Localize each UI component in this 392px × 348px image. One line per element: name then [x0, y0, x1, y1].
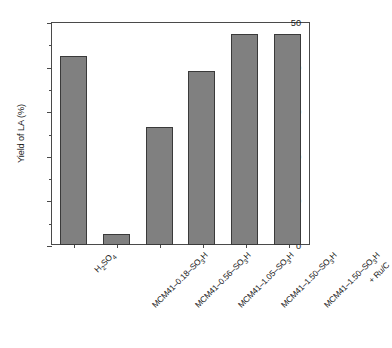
bar[interactable]	[60, 56, 87, 245]
bar[interactable]	[188, 71, 215, 245]
bar-slot	[52, 23, 95, 244]
y-tick-major	[47, 246, 52, 247]
x-axis-labels: H2SO4MCM41–0.18–SO3HMCM41–0.56–SO3HMCM41…	[51, 250, 310, 348]
bar-slot	[180, 23, 223, 244]
bar[interactable]	[103, 234, 130, 245]
plot-area: 01020304050	[51, 22, 310, 245]
bar-slot	[223, 23, 266, 244]
bar-slot	[95, 23, 138, 244]
bar[interactable]	[274, 34, 301, 245]
bar[interactable]	[146, 127, 173, 245]
x-tick-label: H2SO4	[92, 250, 119, 277]
bars-container	[52, 23, 309, 244]
bar-slot	[266, 23, 309, 244]
bar-slot	[138, 23, 181, 244]
bar[interactable]	[231, 34, 258, 245]
y-axis-title: Yield of LA (%)	[14, 22, 28, 245]
y-axis-title-text: Yield of LA (%)	[16, 104, 26, 163]
